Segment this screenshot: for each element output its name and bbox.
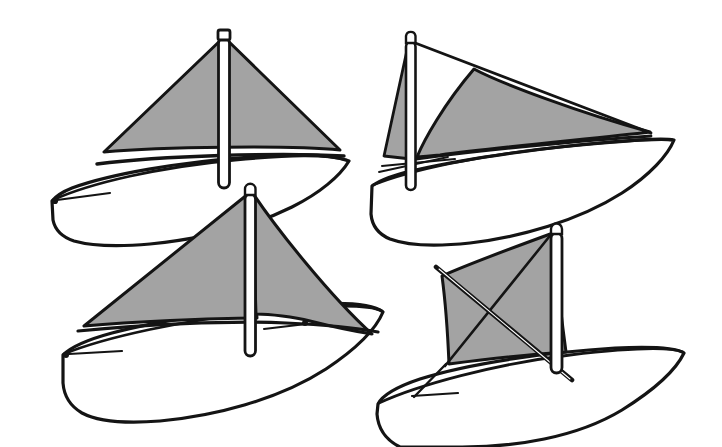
masthead-top-right	[406, 32, 416, 43]
mast-top-left	[219, 38, 230, 188]
mast-bottom-right	[551, 233, 562, 373]
masthead-bottom-left	[245, 184, 256, 195]
boom-fitting-bottom-left	[302, 320, 308, 326]
bow-fitting-top-left	[52, 198, 58, 204]
masthead-bottom-right	[551, 224, 562, 235]
illustration-canvas	[0, 0, 722, 447]
sailboats-illustration	[0, 0, 722, 447]
masthead-cap-top-left	[218, 30, 230, 40]
mast-bottom-left	[245, 194, 256, 356]
mast-top-right	[406, 42, 416, 190]
bow-fitting-bottom-left	[63, 352, 69, 358]
